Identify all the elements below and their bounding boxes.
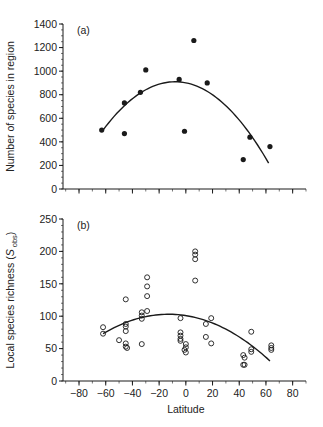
data-point — [203, 321, 208, 326]
fit-curve — [103, 314, 270, 361]
x-tick-label: −80 — [70, 387, 88, 399]
data-point — [145, 275, 150, 280]
x-tick-label: 0 — [183, 387, 189, 399]
panel-a: 0200400600800100012001400(a)Number of sp… — [4, 18, 306, 195]
data-point — [101, 325, 106, 330]
data-point — [122, 131, 127, 136]
y-tick-label: 150 — [39, 278, 57, 290]
x-tick-label: −60 — [97, 387, 115, 399]
panel-b: 050100150200250−80−60−40−20020406080(b)L… — [4, 213, 306, 415]
data-point — [145, 284, 150, 289]
data-point — [125, 345, 130, 350]
data-point — [193, 278, 198, 283]
fit-curve — [103, 82, 269, 163]
data-point — [123, 344, 128, 349]
x-tick-label: −20 — [150, 387, 168, 399]
panel-label: (b) — [77, 219, 90, 231]
data-point — [182, 129, 187, 134]
data-point — [205, 80, 210, 85]
x-tick-label: 40 — [233, 387, 245, 399]
y-tick-label: 200 — [39, 159, 57, 171]
data-point — [123, 297, 128, 302]
y-tick-label: 400 — [39, 136, 57, 148]
data-point — [267, 144, 272, 149]
panel-label: (a) — [77, 24, 90, 36]
data-point — [117, 338, 122, 343]
data-point — [203, 334, 208, 339]
data-point — [191, 38, 196, 43]
x-axis-title: Latitude — [167, 403, 205, 415]
x-tick-label: 80 — [287, 387, 299, 399]
x-tick-label: −40 — [124, 387, 142, 399]
y-axis-title: Local species richness (S obs) — [4, 232, 19, 369]
data-point — [122, 100, 127, 105]
x-tick-label: 60 — [260, 387, 272, 399]
data-point — [247, 135, 252, 140]
data-point — [145, 294, 150, 299]
data-point — [209, 316, 214, 321]
y-tick-label: 600 — [39, 112, 57, 124]
y-tick-label: 1000 — [34, 65, 58, 77]
y-tick-label: 200 — [39, 245, 57, 257]
chart-canvas: 0200400600800100012001400(a)Number of sp… — [0, 0, 323, 427]
data-point — [138, 90, 143, 95]
data-point — [241, 157, 246, 162]
figure: 0200400600800100012001400(a)Number of sp… — [0, 0, 323, 427]
y-tick-label: 800 — [39, 88, 57, 100]
y-tick-label: 50 — [45, 342, 57, 354]
data-point — [177, 77, 182, 82]
data-point — [249, 329, 254, 334]
data-point — [178, 316, 183, 321]
data-point — [209, 341, 214, 346]
y-tick-label: 100 — [39, 310, 57, 322]
x-tick-label: 20 — [207, 387, 219, 399]
data-point — [145, 309, 150, 314]
data-point — [139, 342, 144, 347]
data-point — [99, 127, 104, 132]
y-tick-label: 0 — [51, 375, 57, 387]
y-axis-title: Number of species in region — [4, 41, 16, 172]
y-tick-label: 0 — [51, 183, 57, 195]
y-tick-label: 1400 — [34, 18, 58, 30]
data-point — [143, 67, 148, 72]
y-tick-label: 1200 — [34, 41, 58, 53]
y-tick-label: 250 — [39, 213, 57, 225]
